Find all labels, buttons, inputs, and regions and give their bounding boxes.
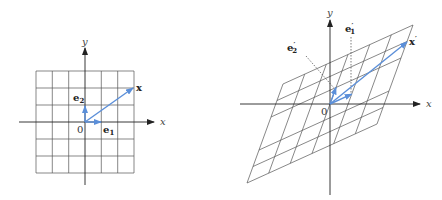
right-panel: x y 0 e′1 e′2 x′ — [240, 7, 432, 195]
label-x: x — [136, 82, 143, 93]
label-e1: e1 — [103, 124, 114, 137]
right-x-axis-label: x — [426, 98, 432, 109]
right-y-axis-label: y — [326, 7, 333, 18]
left-y-axis-label: y — [81, 36, 88, 47]
linear-transformation-figure: x y 0 e1 e2 x x — [0, 0, 442, 200]
right-origin-label: 0 — [321, 106, 327, 117]
left-panel: x y 0 e1 e2 x — [19, 36, 166, 185]
label-e2-prime: e′2 — [287, 40, 297, 55]
label-x-prime: x′ — [409, 34, 417, 47]
left-x-axis-label: x — [160, 116, 166, 127]
left-origin-label: 0 — [77, 124, 83, 135]
label-e2: e2 — [73, 92, 84, 105]
label-e1-prime: e′1 — [345, 21, 355, 36]
